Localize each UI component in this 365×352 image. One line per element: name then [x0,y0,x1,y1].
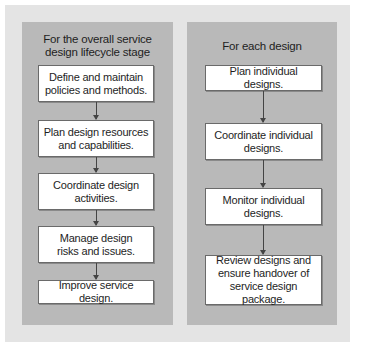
step-review-and-handover: Review designs and ensure handover of se… [205,255,322,305]
step-plan-individual-designs: Plan individual designs. [205,65,322,91]
step-label: Review designs and ensure handover of se… [210,254,317,306]
arrow-down-icon [263,160,264,187]
step-coordinate-individual-designs: Coordinate individual designs. [205,123,322,160]
step-label: Improve service design. [43,279,149,305]
step-improve-service-design: Improve service design. [38,280,154,304]
step-label: Manage design risks and issues. [57,232,135,258]
arrow-down-icon [96,210,97,225]
step-label: Coordinate individual designs. [214,129,313,155]
arrow-down-icon [96,263,97,279]
step-monitor-individual-designs: Monitor individual designs. [205,188,322,225]
lifecycle-stage-title: For the overall service design lifecycle… [22,33,173,59]
step-manage-risks: Manage design risks and issues. [38,226,154,263]
arrow-down-icon [263,91,264,122]
lifecycle-stage-title-line1: For the overall service [22,33,173,46]
step-coordinate-activities: Coordinate design activities. [38,173,154,210]
step-label: Plan design resources and capabilities. [44,126,149,152]
step-label: Define and maintain policies and methods… [45,71,147,97]
arrow-down-icon [96,102,97,119]
arrow-down-icon [96,157,97,172]
step-label: Plan individual designs. [210,65,317,91]
arrow-down-icon [263,225,264,254]
step-define-policies: Define and maintain policies and methods… [38,65,154,102]
each-design-title: For each design [187,40,337,53]
lifecycle-stage-title-line2: design lifecycle stage [22,46,173,59]
step-label: Monitor individual designs. [223,194,305,220]
step-label: Coordinate design activities. [53,179,139,205]
step-plan-resources: Plan design resources and capabilities. [38,120,154,157]
